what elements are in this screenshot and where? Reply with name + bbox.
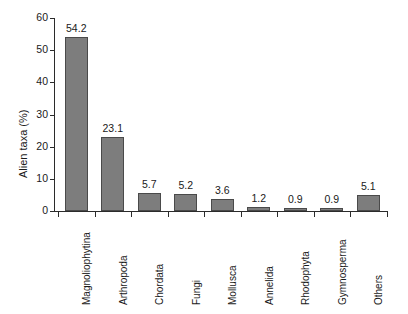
bar xyxy=(211,199,234,211)
bar-value-label: 23.1 xyxy=(93,122,133,134)
x-axis-line xyxy=(54,211,388,212)
y-axis-tick-mark xyxy=(50,82,54,83)
y-axis-tick-mark xyxy=(50,115,54,116)
x-axis-category-label: Rhodophyta xyxy=(300,251,311,305)
x-axis-category-label: Arthropoda xyxy=(118,256,129,305)
bar xyxy=(320,208,343,211)
bar-value-label: 5.2 xyxy=(166,179,206,191)
x-axis-category-label: Others xyxy=(373,275,384,305)
bar-value-label: 5.7 xyxy=(129,178,169,190)
bar-value-label: 0.9 xyxy=(275,193,315,205)
y-axis-tick-mark xyxy=(50,50,54,51)
bar-chart: Alien taxa (%) 0102030405060 54.223.15.7… xyxy=(0,0,408,314)
bar xyxy=(138,193,161,211)
x-axis-tick-mark xyxy=(58,212,59,217)
bar xyxy=(101,137,124,211)
x-axis-category-label: Chordata xyxy=(154,264,165,305)
x-axis-tick-mark xyxy=(95,212,96,217)
bar-value-label: 1.2 xyxy=(239,192,279,204)
x-axis-tick-mark xyxy=(277,212,278,217)
x-axis-category-label: Magnoliophytina xyxy=(81,232,92,305)
y-axis-tick-label: 10 xyxy=(22,172,48,184)
x-axis-tick-mark xyxy=(204,212,205,217)
bar xyxy=(357,195,380,211)
y-axis-tick-label: 20 xyxy=(22,140,48,152)
bar-value-label: 3.6 xyxy=(202,184,242,196)
x-axis-tick-mark xyxy=(387,212,388,217)
y-axis-tick-label: 60 xyxy=(22,11,48,23)
y-axis-tick-mark xyxy=(50,147,54,148)
y-axis-tick-label: 0 xyxy=(22,204,48,216)
x-axis-category-label: Gymnosperma xyxy=(337,239,348,305)
bar xyxy=(65,37,88,211)
x-axis-tick-mark xyxy=(241,212,242,217)
bar-value-label: 54.2 xyxy=(56,22,96,34)
y-axis-tick-mark xyxy=(50,211,54,212)
y-axis-tick-label: 50 xyxy=(22,43,48,55)
x-axis-tick-mark xyxy=(314,212,315,217)
x-axis-category-label: Mollusca xyxy=(227,266,238,305)
x-axis-tick-mark xyxy=(168,212,169,217)
y-axis-tick-mark xyxy=(50,179,54,180)
bar-value-label: 5.1 xyxy=(348,180,388,192)
y-axis-tick-label: 30 xyxy=(22,108,48,120)
y-axis-tick-mark xyxy=(50,18,54,19)
bar xyxy=(174,194,197,211)
x-axis-tick-mark xyxy=(131,212,132,217)
bar xyxy=(284,208,307,211)
x-axis-category-label: Annelida xyxy=(264,266,275,305)
y-axis-tick-label: 40 xyxy=(22,75,48,87)
bar-value-label: 0.9 xyxy=(312,193,352,205)
x-axis-category-label: Fungi xyxy=(191,280,202,305)
x-axis-tick-mark xyxy=(350,212,351,217)
bar xyxy=(247,207,270,211)
y-axis-line xyxy=(54,18,55,212)
